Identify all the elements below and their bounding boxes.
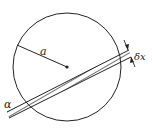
- radius-label: a: [40, 45, 47, 58]
- angle-label: α: [4, 98, 12, 111]
- width-label: δx: [134, 51, 146, 62]
- center-point: [65, 65, 68, 68]
- diagram-canvas: a δx α: [0, 0, 152, 134]
- hatched-strip: [7, 50, 131, 118]
